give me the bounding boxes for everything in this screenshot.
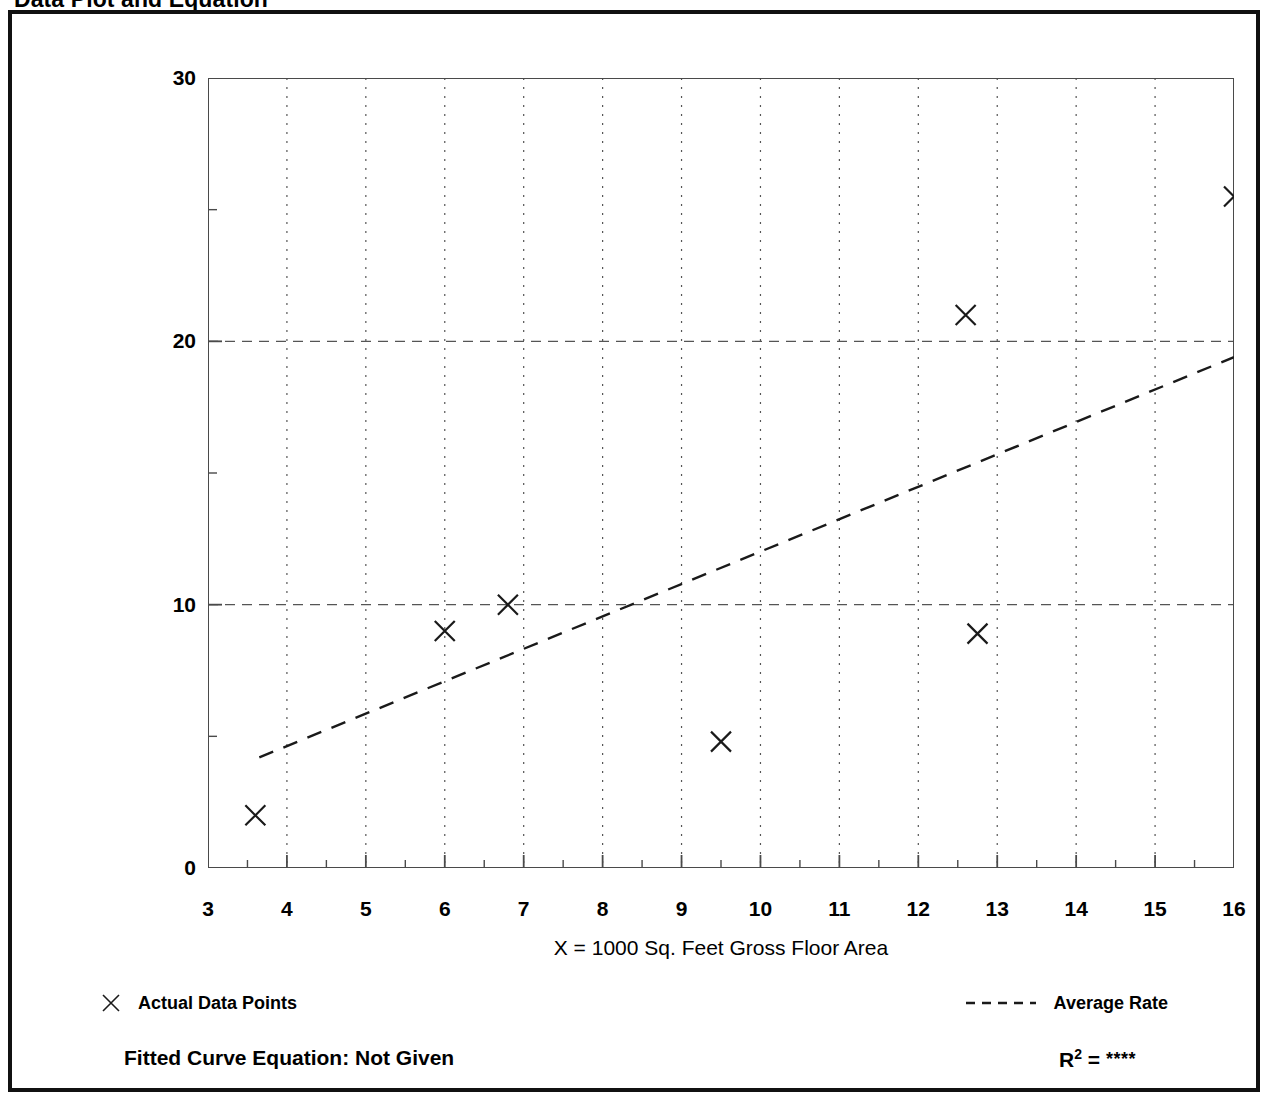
r-squared-equals: = xyxy=(1082,1048,1106,1071)
x-tick-label-12: 12 xyxy=(888,898,948,919)
x-tick-label-8: 8 xyxy=(573,898,633,919)
x-tick-label-15: 15 xyxy=(1125,898,1185,919)
x-tick-label-14: 14 xyxy=(1046,898,1106,919)
scatter-plot-svg xyxy=(208,78,1234,868)
plot-area xyxy=(208,78,1234,868)
r-squared-exponent: 2 xyxy=(1074,1046,1082,1062)
axis-lines xyxy=(208,78,1234,868)
x-axis-tick-labels: 345678910111213141516 xyxy=(208,898,1234,928)
gridlines-horizontal xyxy=(208,341,1234,604)
legend-label-actual-data-points: Actual Data Points xyxy=(138,993,297,1014)
r-squared-symbol: R xyxy=(1059,1048,1074,1071)
y-tick-label-10: 10 xyxy=(150,594,196,615)
fitted-curve-equation: Fitted Curve Equation: Not Given xyxy=(124,1046,454,1070)
y-tick-label-0: 0 xyxy=(150,857,196,878)
legend-item-actual-data-points: Actual Data Points xyxy=(100,982,297,1024)
r-squared-stars: **** xyxy=(1106,1049,1136,1069)
gridlines-vertical xyxy=(287,78,1155,868)
x-tick-label-3: 3 xyxy=(178,898,238,919)
y-axis-tick-labels: 0102030 xyxy=(132,14,196,1014)
x-tick-label-10: 10 xyxy=(730,898,790,919)
x-axis-title: X = 1000 Sq. Feet Gross Floor Area xyxy=(208,936,1234,960)
x-tick-label-13: 13 xyxy=(967,898,1027,919)
data-point-markers xyxy=(245,187,1234,826)
r-squared-value: R2 = **** xyxy=(1059,1046,1136,1072)
legend-item-average-rate: Average Rate xyxy=(964,982,1168,1024)
x-tick-label-7: 7 xyxy=(494,898,554,919)
x-tick-label-6: 6 xyxy=(415,898,475,919)
x-marker-icon xyxy=(100,992,122,1014)
chart-footer: Fitted Curve Equation: Not Given R2 = **… xyxy=(20,1038,1272,1084)
chart-frame: T = Average Vehicle Trip Ends 0102030 34… xyxy=(8,10,1260,1092)
x-tick-label-11: 11 xyxy=(809,898,869,919)
x-tick-label-4: 4 xyxy=(257,898,317,919)
x-tick-label-16: 16 xyxy=(1204,898,1264,919)
y-tick-label-20: 20 xyxy=(150,330,196,351)
x-tick-label-5: 5 xyxy=(336,898,396,919)
axis-ticks xyxy=(208,78,1234,868)
y-tick-label-30: 30 xyxy=(150,67,196,88)
chart-legend: Actual Data Points Average Rate xyxy=(20,982,1272,1024)
dashed-line-icon xyxy=(964,997,1038,1009)
trend-line-average-rate xyxy=(259,357,1234,757)
legend-label-average-rate: Average Rate xyxy=(1054,993,1168,1014)
x-tick-label-9: 9 xyxy=(652,898,712,919)
